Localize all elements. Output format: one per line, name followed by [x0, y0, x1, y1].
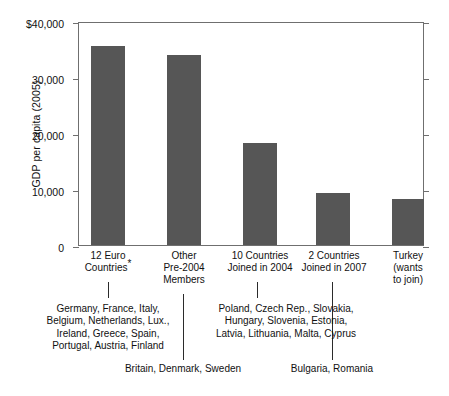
bar-other-pre-2004-members — [167, 55, 201, 245]
category-label-text: 12 Euro Countries — [85, 250, 128, 273]
bar-2-countries-2007 — [316, 193, 350, 245]
y-tick-0: 0 — [73, 247, 79, 248]
y-tick-right-30000 — [423, 79, 429, 80]
y-tick-right-0 — [423, 247, 429, 248]
annotation-joined-2004: Poland, Czech Rep., Slovakia, Hungary, S… — [190, 303, 382, 340]
y-tick-10000: 10,000 — [73, 191, 79, 192]
gdp-per-capita-bar-chart: GDP per capita (2005) $40,000 30,000 20,… — [0, 0, 449, 396]
plot-area: $40,000 30,000 20,000 10,000 0 — [78, 22, 424, 246]
y-tick-label-10000: 10,000 — [32, 186, 64, 198]
leader-line-euro-members — [108, 282, 109, 298]
y-tick-label-20000: 20,000 — [32, 130, 64, 142]
y-tick-20000: 20,000 — [73, 135, 79, 136]
bar-turkey — [392, 199, 424, 245]
y-tick-right-20000 — [423, 135, 429, 136]
category-label-turkey: Turkey (wants to join) — [358, 250, 449, 285]
y-tick-right-10000 — [423, 191, 429, 192]
annotation-joined-2007: Bulgaria, Romania — [270, 363, 394, 375]
annotation-euro-members: Germany, France, Italy, Belgium, Netherl… — [20, 303, 196, 353]
y-tick-30000: 30,000 — [73, 79, 79, 80]
annotation-other-pre2004: Britain, Denmark, Sweden — [108, 363, 258, 375]
bar-12-euro-countries — [91, 46, 125, 245]
bar-10-countries-2004 — [243, 143, 277, 245]
leader-line-joined-2004 — [257, 282, 258, 298]
footnote-asterisk: * — [127, 257, 131, 268]
y-tick-label-40000: $40,000 — [26, 18, 64, 30]
y-tick-40000: $40,000 — [73, 23, 79, 24]
y-tick-label-30000: 30,000 — [32, 74, 64, 86]
y-tick-right-40000 — [423, 23, 429, 24]
